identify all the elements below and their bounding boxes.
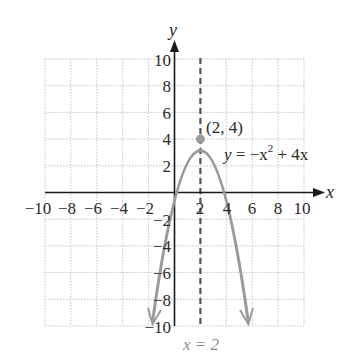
vertex-point <box>196 135 205 144</box>
y-tick: 8 <box>163 77 172 96</box>
x-tick: −4 <box>110 199 129 218</box>
y-axis-arrow-icon <box>170 40 179 52</box>
chart-canvas: y x 10 8 6 4 2 −2 −4 −6 −8 −10 −10 −8 −6… <box>0 0 362 359</box>
y-tick: −2 <box>153 211 171 230</box>
x-tick: 2 <box>196 199 205 218</box>
x-tick: −6 <box>84 199 102 218</box>
y-tick: 10 <box>154 51 171 70</box>
x-tick: −2 <box>136 199 154 218</box>
x-tick: 6 <box>248 199 257 218</box>
x-tick: −10 <box>25 199 52 218</box>
y-tick: −6 <box>153 264 171 283</box>
symmetry-label: x = 2 <box>182 335 220 354</box>
x-tick: −8 <box>58 199 76 218</box>
equation-label: y = −x2 + 4x <box>222 142 309 164</box>
y-tick: −8 <box>153 291 171 310</box>
x-tick: 4 <box>223 199 232 218</box>
x-axis-arrow-icon <box>313 188 325 197</box>
equation-y: y <box>222 145 232 164</box>
equation-tail: + 4x <box>273 145 309 164</box>
equation-body: = −x <box>232 145 269 164</box>
y-tick: −10 <box>144 318 171 337</box>
y-tick: 2 <box>163 157 172 176</box>
y-tick: 4 <box>163 130 172 149</box>
x-tick: 8 <box>274 199 283 218</box>
y-axis-label: y <box>167 20 177 40</box>
x-tick: 10 <box>294 199 311 218</box>
y-tick: −4 <box>153 237 172 256</box>
parabola-chart: y x 10 8 6 4 2 −2 −4 −6 −8 −10 −10 −8 −6… <box>0 0 362 359</box>
vertex-label: (2, 4) <box>206 118 243 137</box>
x-axis-label: x <box>325 182 334 202</box>
axes <box>45 40 325 326</box>
y-tick: 6 <box>163 104 172 123</box>
